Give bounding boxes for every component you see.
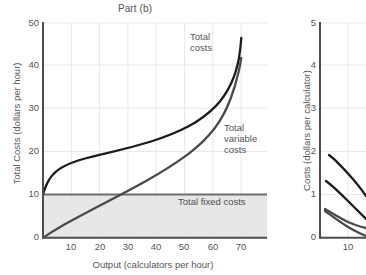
right-curve-lower-b [325, 211, 366, 236]
right-ytick-0: 0 [294, 231, 316, 242]
total-costs-annotation-line2: costs [190, 42, 212, 53]
right-xtick-10: 10 [337, 241, 359, 252]
right-gridlines [320, 23, 366, 238]
total-variable-costs-annotation: Total variable costs [224, 122, 257, 155]
figure-container: Part (b) [0, 0, 366, 275]
total-variable-costs-annotation-line3: costs [224, 144, 257, 155]
total-costs-curve [43, 38, 241, 195]
left-xtick-20: 20 [89, 241, 111, 252]
total-fixed-costs-annotation: Total fixed costs [178, 196, 246, 207]
left-xtick-50: 50 [173, 241, 195, 252]
left-y-axis-label: Total Costs (dollars per hour) [11, 24, 22, 224]
right-ytick-5: 5 [294, 17, 316, 28]
total-variable-costs-annotation-line2: variable [224, 133, 257, 144]
total-variable-costs-annotation-line1: Total [224, 122, 257, 133]
left-x-axis-label: Output (calculators per hour) [38, 259, 268, 270]
left-xtick-60: 60 [202, 241, 224, 252]
total-costs-annotation-line1: Total [190, 31, 212, 42]
left-xtick-10: 10 [60, 241, 82, 252]
total-costs-annotation: Total costs [190, 31, 212, 53]
right-y-axis-label: Costs (dollars per calculator) [301, 31, 312, 231]
left-ytick-0: 0 [17, 231, 39, 242]
left-xtick-30: 30 [117, 241, 139, 252]
left-xtick-70: 70 [230, 241, 252, 252]
left-xtick-40: 40 [145, 241, 167, 252]
